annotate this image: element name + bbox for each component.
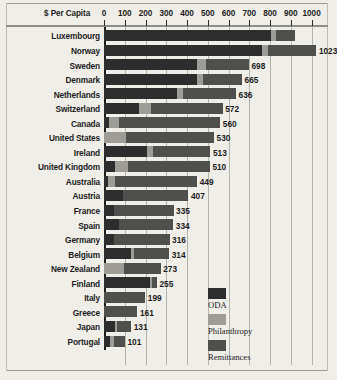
legend-item-philanthropy[interactable]: Philanthropy xyxy=(208,314,300,340)
row-label-germany: Germany xyxy=(2,235,100,245)
x-tick-mark-800 xyxy=(270,20,271,26)
row-label-finland: Finland xyxy=(2,279,100,289)
bar-segment-remittances xyxy=(206,59,249,70)
legend-item-remittances[interactable]: Remittances xyxy=(208,340,300,366)
bar-segment-remittances xyxy=(104,306,137,317)
bar-row[interactable] xyxy=(104,132,322,143)
bar-segment-remittances xyxy=(115,176,197,187)
row-label-australia: Australia xyxy=(2,177,100,187)
bar-segment-philanthropy xyxy=(104,263,124,274)
x-axis-title: $ Per Capita xyxy=(44,9,90,18)
legend-item-oda[interactable]: ODA xyxy=(208,288,300,314)
bar-segment-remittances xyxy=(117,321,131,332)
bar-segment-remittances xyxy=(276,30,296,41)
bar-segment-remittances xyxy=(151,103,223,114)
bar-row[interactable] xyxy=(104,74,322,85)
bar-value-france: 335 xyxy=(176,206,190,216)
x-tick-label-900: 900 xyxy=(284,9,298,18)
row-label-netherlands: Netherlands xyxy=(2,90,100,100)
x-tick-mark-100 xyxy=(125,20,126,26)
bar-segment-oda xyxy=(104,161,115,172)
x-tick-label-700: 700 xyxy=(242,9,256,18)
row-label-norway: Norway xyxy=(2,46,100,56)
bar-value-japan: 131 xyxy=(134,322,148,332)
bar-row[interactable] xyxy=(104,45,322,56)
bar-value-canada: 560 xyxy=(223,119,237,129)
bar-segment-oda xyxy=(104,74,197,85)
row-label-sweden: Sweden xyxy=(2,61,100,71)
bar-row[interactable] xyxy=(104,30,322,41)
bar-segment-remittances xyxy=(268,45,316,56)
row-label-denmark: Denmark xyxy=(2,75,100,85)
bar-segment-remittances xyxy=(114,336,125,347)
x-tick-mark-600 xyxy=(229,20,230,26)
row-label-luxembourg: Luxembourg xyxy=(2,31,100,41)
row-label-new-zealand: New Zealand xyxy=(2,264,100,274)
bar-segment-remittances xyxy=(114,234,169,245)
row-label-japan: Japan xyxy=(2,322,100,332)
bar-row[interactable] xyxy=(104,117,322,128)
bar-value-austria: 407 xyxy=(191,191,205,201)
bar-segment-oda xyxy=(104,146,147,157)
x-tick-label-400: 400 xyxy=(180,9,194,18)
bar-value-new-zealand: 273 xyxy=(163,264,177,274)
bar-row[interactable] xyxy=(104,59,322,70)
bar-value-switzerland: 572 xyxy=(225,104,239,114)
bar-row[interactable] xyxy=(104,263,322,274)
row-label-canada: Canada xyxy=(2,119,100,129)
bar-segment-oda xyxy=(104,30,271,41)
row-label-belgium: Belgium xyxy=(2,250,100,260)
bar-segment-oda xyxy=(104,234,114,245)
bar-row[interactable] xyxy=(104,205,322,216)
bar-segment-oda xyxy=(104,45,262,56)
bar-segment-remittances xyxy=(203,74,242,85)
bar-segment-remittances xyxy=(152,277,157,288)
bar-value-sweden: 698 xyxy=(251,61,265,71)
bar-segment-remittances xyxy=(128,161,210,172)
bar-segment-oda xyxy=(104,103,139,114)
x-tick-label-200: 200 xyxy=(139,9,153,18)
x-tick-label-100: 100 xyxy=(118,9,132,18)
bar-value-greece: 161 xyxy=(140,308,154,318)
bar-value-united-kingdom: 510 xyxy=(212,162,226,172)
bar-segment-remittances xyxy=(153,146,211,157)
bar-segment-oda xyxy=(104,88,177,99)
bar-segment-philanthropy xyxy=(262,45,269,56)
legend-label-remittances: Remittances xyxy=(208,352,250,362)
bar-row[interactable] xyxy=(104,190,322,201)
bar-segment-philanthropy xyxy=(104,132,126,143)
bar-segment-remittances xyxy=(119,219,174,230)
bar-segment-philanthropy xyxy=(139,103,150,114)
row-label-ireland: Ireland xyxy=(2,148,100,158)
bar-segment-oda xyxy=(104,321,115,332)
row-label-italy: Italy xyxy=(2,293,100,303)
top-rule xyxy=(6,3,328,4)
x-tick-mark-1000 xyxy=(312,20,313,26)
x-tick-label-500: 500 xyxy=(201,9,215,18)
bar-segment-oda xyxy=(104,59,197,70)
chart-legend: ODAPhilanthropyRemittances xyxy=(208,288,300,366)
bar-row[interactable] xyxy=(104,277,322,288)
legend-swatch-remittances xyxy=(208,340,226,351)
bar-row[interactable] xyxy=(104,248,322,259)
row-label-austria: Austria xyxy=(2,191,100,201)
legend-swatch-philanthropy xyxy=(208,314,226,325)
x-tick-mark-500 xyxy=(208,20,209,26)
bar-value-norway: 1023 xyxy=(319,46,337,56)
bar-segment-oda xyxy=(104,248,131,259)
bar-row[interactable] xyxy=(104,219,322,230)
bar-segment-oda xyxy=(104,219,119,230)
bar-value-ireland: 513 xyxy=(213,148,227,158)
x-tick-mark-400 xyxy=(187,20,188,26)
bar-row[interactable] xyxy=(104,234,322,245)
bar-row[interactable] xyxy=(104,88,322,99)
bar-segment-remittances xyxy=(134,248,169,259)
bar-row[interactable] xyxy=(104,103,322,114)
bar-segment-remittances xyxy=(119,117,221,128)
bar-value-finland: 255 xyxy=(159,279,173,289)
x-tick-mark-900 xyxy=(291,20,292,26)
x-tick-label-600: 600 xyxy=(222,9,236,18)
bar-value-portugal: 101 xyxy=(127,337,141,347)
bar-segment-remittances xyxy=(126,132,214,143)
row-label-switzerland: Switzerland xyxy=(2,104,100,114)
